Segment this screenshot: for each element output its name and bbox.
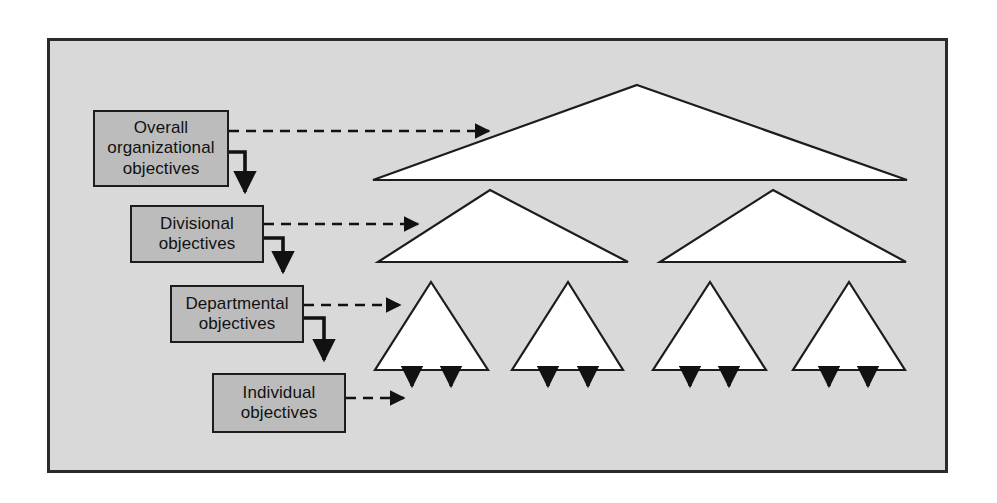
box-divisional-label: Divisionalobjectives [155,214,240,254]
box-departmental-objectives: Departmentalobjectives [170,285,304,343]
diagram-canvas: Overallorganizationalobjectives Division… [0,0,997,503]
box-individual-label: Individualobjectives [237,383,322,423]
box-departmental-label: Departmentalobjectives [181,294,292,334]
box-individual-objectives: Individualobjectives [212,373,346,433]
box-divisional-objectives: Divisionalobjectives [130,205,264,263]
box-overall-organizational-objectives: Overallorganizationalobjectives [93,110,229,187]
box-overall-label: Overallorganizationalobjectives [103,118,218,178]
